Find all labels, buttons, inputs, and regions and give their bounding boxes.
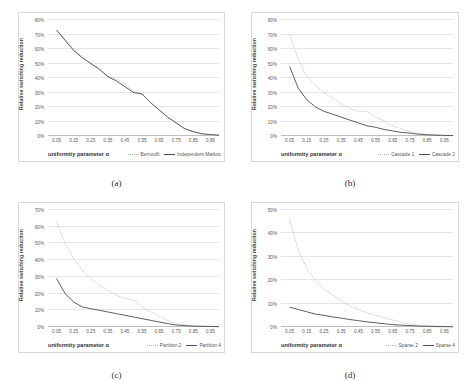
series-line [57, 279, 219, 327]
x-axis-ticks-a: 0.050.150.250.350.450.550.650.750.850.95 [48, 136, 219, 148]
series-line [57, 30, 219, 135]
x-tick-label: 0.55 [138, 329, 147, 334]
legend-label: Sparse 2 [399, 343, 418, 348]
y-tick-label: 20% [35, 105, 44, 110]
x-axis-label-d: uniformity parameter α [281, 342, 342, 348]
x-tick-label: 0.95 [440, 138, 449, 143]
y-tick-label: 10% [268, 119, 277, 124]
x-tick-label: 0.45 [120, 138, 129, 143]
legend-swatch-dotted-icon [128, 154, 139, 155]
x-tick-label: 0.05 [285, 329, 294, 334]
y-tick-label: 50% [268, 208, 277, 213]
x-tick-label: 0.85 [189, 138, 198, 143]
y-axis-ticks-c: 0%10%20%30%40%50%60%70% [18, 210, 46, 327]
panel-footer-a: uniformity parameter α BernoulliIndepend… [48, 148, 221, 160]
legend-label: Partition 2 [160, 343, 182, 348]
plot-area-c: 0%10%20%30%40%50%60%70% 0.050.150.250.35… [48, 210, 219, 327]
legend-label: Bernoulli [141, 152, 160, 157]
series-lines-a [48, 20, 219, 136]
y-tick-label: 0% [37, 134, 44, 139]
legend-swatch-solid-icon [423, 345, 434, 346]
y-tick-label: 60% [35, 224, 44, 229]
y-tick-label: 40% [268, 231, 277, 236]
x-tick-label: 0.85 [423, 329, 432, 334]
panel-a: Relative switching reduction 0%10%20%30%… [0, 0, 233, 190]
x-tick-label: 0.15 [302, 329, 311, 334]
x-axis-ticks-d: 0.050.150.250.350.450.550.650.750.850.95 [281, 327, 453, 339]
series-lines-b [281, 20, 453, 136]
x-tick-label: 0.55 [138, 138, 147, 143]
legend-item[interactable]: Bernoulli [128, 152, 160, 157]
x-tick-label: 0.75 [172, 138, 181, 143]
x-tick-label: 0.65 [155, 329, 164, 334]
series-lines-d [281, 210, 453, 327]
y-tick-label: 30% [268, 90, 277, 95]
legend-swatch-dotted-icon [147, 345, 158, 346]
x-tick-label: 0.05 [52, 329, 61, 334]
y-tick-label: 20% [268, 105, 277, 110]
series-line [290, 219, 453, 326]
legend-item[interactable]: Sparse 4 [423, 343, 455, 348]
x-tick-label: 0.25 [320, 138, 329, 143]
y-tick-label: 20% [268, 278, 277, 283]
series-line [290, 35, 453, 136]
x-tick-label: 0.35 [103, 138, 112, 143]
x-tick-label: 0.75 [406, 138, 415, 143]
panel-caption-d: (d) [233, 370, 467, 380]
legend-item[interactable]: Cascade 1 [378, 152, 414, 157]
y-tick-label: 60% [268, 47, 277, 52]
panel-caption-b: (b) [233, 178, 467, 188]
x-axis-ticks-b: 0.050.150.250.350.450.550.650.750.850.95 [281, 136, 453, 148]
legend-item[interactable]: Independent Markov [164, 152, 221, 157]
legend-item[interactable]: Partition 2 [147, 343, 182, 348]
y-tick-label: 50% [35, 61, 44, 66]
legend-item[interactable]: Partition 4 [186, 343, 221, 348]
legend-label: Sparse 4 [436, 343, 455, 348]
legend-b: Cascade 1Cascade 2 [378, 152, 455, 157]
y-tick-label: 80% [268, 18, 277, 23]
plot-area-a: 0%10%20%30%40%50%60%70%80% 0.050.150.250… [48, 20, 219, 136]
x-tick-label: 0.15 [302, 138, 311, 143]
x-tick-label: 0.95 [206, 138, 215, 143]
legend-swatch-solid-icon [186, 345, 197, 346]
x-tick-label: 0.35 [103, 329, 112, 334]
legend-item[interactable]: Sparse 2 [386, 343, 418, 348]
y-tick-label: 50% [268, 61, 277, 66]
legend-item[interactable]: Cascade 2 [419, 152, 455, 157]
x-tick-label: 0.85 [189, 329, 198, 334]
x-tick-label: 0.45 [354, 138, 363, 143]
panel-footer-c: uniformity parameter α Partition 2Partit… [48, 339, 221, 351]
x-tick-label: 0.65 [388, 138, 397, 143]
figure-grid: Relative switching reduction 0%10%20%30%… [0, 0, 467, 381]
y-tick-label: 60% [35, 47, 44, 52]
y-tick-label: 80% [35, 18, 44, 23]
x-tick-label: 0.85 [423, 138, 432, 143]
x-tick-label: 0.95 [440, 329, 449, 334]
series-line [57, 30, 219, 135]
y-tick-label: 30% [35, 274, 44, 279]
legend-swatch-solid-icon [419, 154, 430, 155]
legend-c: Partition 2Partition 4 [147, 343, 221, 348]
x-tick-label: 0.25 [86, 138, 95, 143]
y-tick-label: 30% [268, 254, 277, 259]
x-tick-label: 0.45 [120, 329, 129, 334]
y-tick-label: 70% [268, 32, 277, 37]
y-tick-label: 30% [35, 90, 44, 95]
panel-c: Relative switching reduction 0%10%20%30%… [0, 190, 233, 381]
plot-area-b: 0%10%20%30%40%50%60%70%80% 0.050.150.250… [281, 20, 453, 136]
x-tick-label: 0.35 [337, 138, 346, 143]
x-axis-ticks-c: 0.050.150.250.350.450.550.650.750.850.95 [48, 327, 219, 339]
panel-d: Relative switching reduction 0%10%20%30%… [233, 190, 467, 381]
y-tick-label: 40% [35, 258, 44, 263]
panel-footer-d: uniformity parameter α Sparse 2Sparse 4 [281, 339, 455, 351]
panel-caption-a: (a) [0, 178, 233, 188]
legend-swatch-solid-icon [164, 154, 175, 155]
y-axis-ticks-b: 0%10%20%30%40%50%60%70%80% [251, 20, 279, 136]
legend-label: Partition 4 [199, 343, 221, 348]
x-tick-label: 0.05 [285, 138, 294, 143]
series-line [57, 222, 219, 327]
plot-area-d: 0%10%20%30%40%50% 0.050.150.250.350.450.… [281, 210, 453, 327]
y-tick-label: 10% [35, 119, 44, 124]
x-tick-label: 0.05 [52, 138, 61, 143]
x-tick-label: 0.95 [206, 329, 215, 334]
